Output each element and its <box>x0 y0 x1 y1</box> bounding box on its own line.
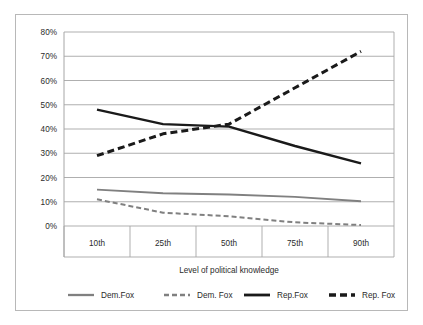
series-line <box>97 199 361 225</box>
line-chart: 0%10%20%30%40%50%60%70%80% 10th25th50th7… <box>16 15 409 312</box>
chart-frame: 0%10%20%30%40%50%60%70%80% 10th25th50th7… <box>15 14 408 311</box>
x-axis-tick-labels: 10th25th50th75th90th <box>89 239 369 248</box>
y-axis-tick-label: 50% <box>41 101 57 110</box>
x-axis-category-cells <box>64 32 394 257</box>
legend-label: Dem.Fox <box>101 291 134 300</box>
legend-label: Rep. Fox <box>362 291 395 300</box>
series-line <box>97 51 361 155</box>
x-axis-tick-label: 50th <box>221 239 237 248</box>
chart-legend: Dem.FoxDem. FoxRep.FoxRep. Fox <box>68 291 395 300</box>
y-axis-tick-label: 0% <box>45 222 57 231</box>
series-lines <box>97 51 361 225</box>
y-axis-tick-label: 20% <box>41 174 57 183</box>
x-axis-tick-label: 25th <box>155 239 171 248</box>
y-axis-tick-label: 70% <box>41 52 57 61</box>
x-axis-tick-label: 75th <box>287 239 303 248</box>
legend-label: Dem. Fox <box>197 291 233 300</box>
y-axis-tick-labels: 0%10%20%30%40%50%60%70%80% <box>41 28 57 231</box>
y-axis-tick-label: 60% <box>41 77 57 86</box>
x-axis-tick-label: 10th <box>89 239 105 248</box>
y-axis-tick-label: 80% <box>41 28 57 37</box>
x-axis-tick-label: 90th <box>353 239 369 248</box>
series-line <box>97 110 361 164</box>
y-axis-tick-label: 30% <box>41 149 57 158</box>
y-axis-tick-label: 10% <box>41 198 57 207</box>
y-axis-tick-label: 40% <box>41 125 57 134</box>
series-line <box>97 190 361 202</box>
x-axis-title: Level of political knowledge <box>179 266 279 275</box>
legend-label: Rep.Fox <box>277 291 308 300</box>
